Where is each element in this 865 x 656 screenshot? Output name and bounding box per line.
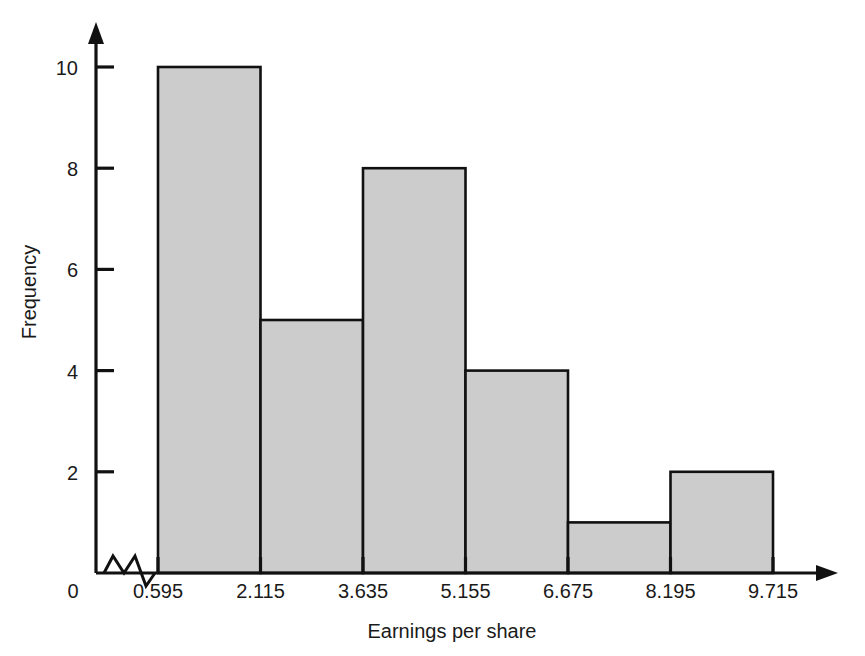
y-tick-group: 246810 — [56, 57, 114, 484]
x-tick-label: 0.595 — [133, 580, 183, 602]
histogram-bar — [671, 472, 774, 573]
y-axis — [88, 22, 104, 573]
x-tick-label: 8.195 — [645, 580, 695, 602]
y-tick-label: 6 — [67, 259, 78, 281]
x-tick-label: 2.115 — [236, 580, 285, 602]
x-tick-label: 5.155 — [440, 580, 490, 602]
histogram-svg: 246810 0.5952.1153.6355.1556.6758.1959.7… — [0, 0, 865, 656]
x-axis-title: Earnings per share — [368, 620, 537, 642]
y-axis-title: Frequency — [18, 245, 40, 340]
bars-group — [158, 67, 773, 573]
y-tick-label: 10 — [56, 57, 78, 79]
y-tick-label: 4 — [67, 361, 78, 383]
x-tick-label: 6.675 — [543, 580, 593, 602]
histogram-figure: 246810 0.5952.1153.6355.1556.6758.1959.7… — [0, 0, 865, 656]
origin-tick-label: 0 — [67, 580, 78, 602]
histogram-bar — [261, 320, 364, 573]
y-tick-label: 2 — [67, 462, 78, 484]
histogram-bar — [568, 522, 671, 573]
x-axis-arrowhead — [816, 565, 838, 581]
histogram-bar — [363, 168, 466, 573]
y-axis-arrowhead — [88, 22, 104, 44]
histogram-bar — [158, 67, 261, 573]
y-tick-label: 8 — [67, 158, 78, 180]
histogram-bar — [466, 371, 569, 573]
x-tick-label: 3.635 — [338, 580, 388, 602]
x-tick-label: 9.715 — [748, 580, 798, 602]
